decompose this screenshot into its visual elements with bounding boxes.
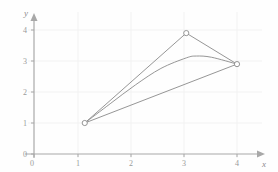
y-tick-label-4: 4 [23, 26, 27, 35]
y-tick-label-1: 1 [23, 119, 27, 128]
y-tick-label-3: 3 [23, 57, 27, 66]
data-point-marker-2 [234, 62, 239, 67]
plot-svg: x y 0 1 2 3 4 0 1 2 3 [0, 0, 278, 172]
x-tick-label-1: 1 [76, 159, 80, 168]
data-point-marker-0 [82, 120, 87, 125]
x-tick-label-3: 3 [182, 159, 186, 168]
data-point-marker-1 [184, 30, 189, 35]
x-tick-label-0: 0 [30, 159, 34, 168]
y-axis-title: y [23, 8, 28, 18]
x-tick-label-4: 4 [235, 159, 239, 168]
x-axis-title: x [261, 159, 266, 169]
chart-figure: x y 0 1 2 3 4 0 1 2 3 [0, 0, 278, 172]
x-tick-label-2: 2 [129, 159, 133, 168]
y-tick-label-0: 0 [23, 150, 27, 159]
y-tick-label-2: 2 [23, 88, 27, 97]
chart-background [0, 0, 278, 172]
